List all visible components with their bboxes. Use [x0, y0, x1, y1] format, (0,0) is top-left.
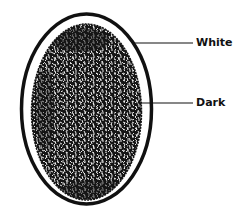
label-dark: Dark: [196, 97, 225, 108]
label-white: White: [196, 37, 232, 48]
